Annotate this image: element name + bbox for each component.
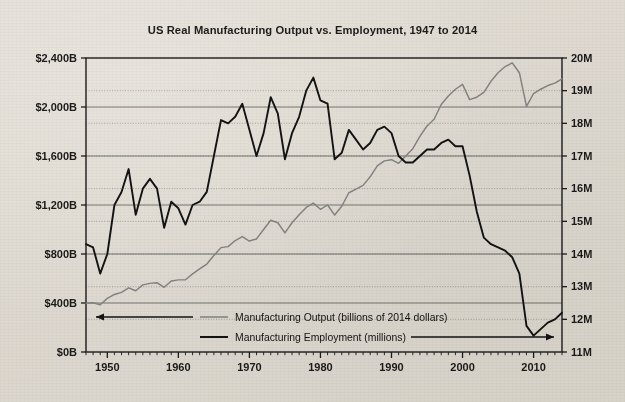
series-line-output	[86, 63, 562, 305]
legend-label-output: Manufacturing Output (billions of 2014 d…	[235, 312, 448, 323]
tick-label-right: 16M	[571, 182, 592, 194]
tick-label-right: 17M	[571, 150, 592, 162]
tick-label-right: 18M	[571, 117, 592, 129]
tick-label-left: $1,200B	[35, 199, 77, 211]
gridlines	[86, 91, 562, 320]
right-axis: 11M12M13M14M15M16M17M18M19M20M	[562, 52, 592, 358]
legend: Manufacturing Output (billions of 2014 d…	[88, 300, 554, 352]
chart-svg: $0B$400B$800B$1,200B$1,600B$2,000B$2,400…	[0, 0, 625, 402]
tick-label-right: 19M	[571, 84, 592, 96]
tick-label-x: 1960	[166, 361, 190, 373]
tick-label-x: 1990	[379, 361, 403, 373]
tick-label-x: 1950	[95, 361, 119, 373]
tick-label-left: $1,600B	[35, 150, 77, 162]
tick-label-x: 1980	[308, 361, 332, 373]
right-arrow-icon	[546, 333, 554, 340]
data-series	[86, 63, 562, 336]
tick-label-left: $800B	[45, 248, 77, 260]
tick-label-left: $2,000B	[35, 101, 77, 113]
tick-label-left: $0B	[57, 346, 77, 358]
tick-label-right: 12M	[571, 313, 592, 325]
legend-label-employment: Manufacturing Employment (millions)	[235, 332, 406, 343]
tick-label-right: 13M	[571, 280, 592, 292]
page-title: US Real Manufacturing Output vs. Employm…	[0, 24, 625, 36]
tick-label-right: 14M	[571, 248, 592, 260]
tick-label-left: $400B	[45, 297, 77, 309]
legend-box	[88, 300, 508, 352]
left-axis: $0B$400B$800B$1,200B$1,600B$2,000B$2,400…	[35, 52, 86, 358]
tick-label-right: 20M	[571, 52, 592, 64]
tick-label-x: 2000	[450, 361, 474, 373]
chart-canvas: $0B$400B$800B$1,200B$1,600B$2,000B$2,400…	[0, 0, 625, 402]
x-axis: 1950196019701980199020002010	[86, 352, 562, 373]
tick-label-x: 2010	[521, 361, 545, 373]
tick-label-right: 11M	[571, 346, 592, 358]
tick-label-x: 1970	[237, 361, 261, 373]
tick-label-left: $2,400B	[35, 52, 77, 64]
tick-label-right: 15M	[571, 215, 592, 227]
